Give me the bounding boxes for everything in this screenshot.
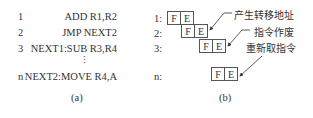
- annotation-instruction-discarded: 指令作废: [254, 24, 294, 39]
- annotation-generate-branch-address: 产生转移地址: [234, 7, 294, 22]
- caption-b: (b): [219, 92, 231, 103]
- annotation-refetch-instruction: 重新取指令: [246, 40, 296, 55]
